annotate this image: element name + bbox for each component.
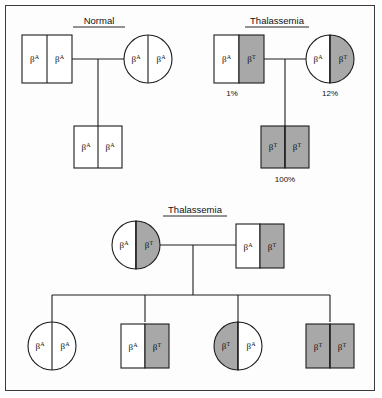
panel-thalassemia-top-mother[interactable]: βA βT 12% (306, 35, 354, 98)
panel-thal-bottom-child-1-left-sup: A (40, 341, 45, 347)
panel-thalassemia-bottom-links (52, 245, 330, 322)
panel-thalassemia-top-title: Thalassemia (250, 15, 305, 26)
panel-normal-father-right-sup: A (60, 54, 65, 60)
panel-thal-bottom-child-2-left-sup: A (133, 342, 138, 348)
panel-thalassemia-bottom: Thalassemia βA βT βA (28, 204, 354, 370)
panel-thalassemia-top-father[interactable]: βA βT 1% (214, 35, 264, 98)
panel-thal-bottom-child-2-right-sup: T (157, 342, 161, 348)
panel-normal-mother-right-sup: A (161, 54, 166, 60)
panel-thal-bottom-mother-left-sup: A (124, 240, 129, 246)
panel-thalassemia-bottom-mother[interactable]: βA βT (112, 221, 160, 269)
panel-thal-top-mother-right-sup: T (343, 54, 347, 60)
pedigree-figure: Normal βA βA βA βA βA βA (0, 0, 382, 398)
panel-thalassemia-top-child[interactable]: βT βT 100% (261, 126, 309, 184)
panel-normal: Normal βA βA βA βA βA βA (22, 15, 172, 168)
panel-thal-top-mother-left-sup: A (318, 54, 323, 60)
panel-thal-bottom-child-1-right-sup: A (65, 341, 70, 347)
panel-thal-top-father-left-sup: A (227, 54, 232, 60)
panel-thalassemia-top: Thalassemia βA βT 1% βA βT 12% (214, 15, 354, 184)
panel-thal-top-child-percent: 100% (275, 175, 295, 184)
panel-thal-top-child-right-sup: T (297, 142, 301, 148)
panel-thal-bottom-father-left-sup: A (248, 242, 253, 248)
panel-thalassemia-bottom-child-4[interactable]: βT βT (306, 324, 354, 368)
panel-normal-mother-left-sup: A (136, 54, 141, 60)
panel-normal-links (72, 59, 124, 126)
panel-thal-bottom-mother-right-sup: T (149, 240, 153, 246)
panel-thal-top-father-right-sup: T (252, 54, 256, 60)
panel-thal-bottom-child-4-right-sup: T (342, 342, 346, 348)
panel-normal-father-left-sup: A (35, 54, 40, 60)
panel-thal-bottom-child-3-right-sup: A (251, 341, 256, 347)
panel-thal-bottom-father-right-sup: T (272, 242, 276, 248)
panel-thalassemia-bottom-father[interactable]: βA βT (236, 224, 284, 268)
panel-thal-bottom-child-4-left-sup: T (318, 342, 322, 348)
panel-thalassemia-bottom-child-1[interactable]: βA βA (28, 322, 76, 370)
panel-normal-child-left-sup: A (86, 142, 91, 148)
panel-normal-child[interactable]: βA βA (74, 126, 122, 168)
panel-thalassemia-top-links (264, 59, 306, 126)
panel-thalassemia-bottom-child-3[interactable]: βT βA (214, 322, 262, 370)
panel-thalassemia-bottom-child-2[interactable]: βA βT (121, 324, 169, 368)
panel-thal-bottom-child-3-left-sup: T (226, 341, 230, 347)
panel-normal-mother[interactable]: βA βA (124, 35, 172, 83)
panel-normal-title: Normal (84, 15, 115, 26)
panel-thal-top-father-percent: 1% (226, 89, 238, 98)
panel-thal-top-mother-percent: 12% (322, 89, 338, 98)
panel-normal-father[interactable]: βA βA (22, 35, 72, 83)
panel-normal-child-right-sup: A (110, 142, 115, 148)
panel-thalassemia-bottom-title: Thalassemia (168, 204, 223, 215)
panel-thal-top-child-left-sup: T (273, 142, 277, 148)
